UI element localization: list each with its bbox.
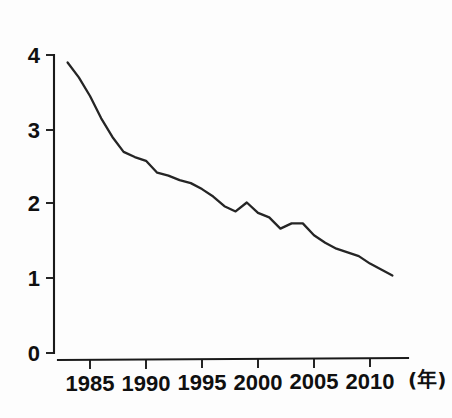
y-tick-label-1: 1	[28, 266, 40, 291]
x-axis-line	[58, 358, 408, 360]
y-tick-label-3: 3	[28, 118, 40, 143]
y-axis-group: 4 3 2 1 0	[28, 43, 54, 366]
x-tick-label-2000: 2000	[234, 370, 283, 395]
line-chart-figure: 4 3 2 1 0 1985 1990 1995 2000 2005 2010 …	[0, 0, 452, 418]
y-tick-label-2: 2	[28, 191, 40, 216]
x-tick-label-1995: 1995	[178, 370, 227, 395]
x-tick-label-1990: 1990	[122, 371, 171, 396]
series-group	[68, 62, 393, 275]
x-axis-unit-label: (年)	[408, 368, 446, 392]
x-tick-label-2005: 2005	[290, 369, 339, 394]
chart-canvas: 4 3 2 1 0 1985 1990 1995 2000 2005 2010 …	[0, 0, 452, 418]
x-axis-group: 1985 1990 1995 2000 2005 2010 (年)	[58, 358, 446, 396]
y-tick-label-4: 4	[28, 43, 41, 68]
x-tick-label-2010: 2010	[346, 369, 395, 394]
x-tick-label-1985: 1985	[66, 371, 115, 396]
y-tick-label-0: 0	[28, 341, 40, 366]
data-line-series-1	[68, 62, 393, 275]
